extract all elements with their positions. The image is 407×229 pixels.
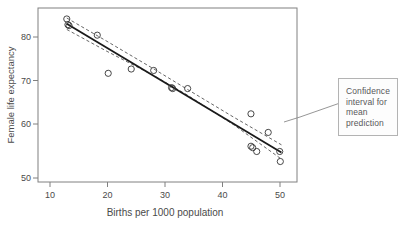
- y-axis-ticks: [33, 37, 38, 178]
- annotation-line-3: mean: [346, 107, 368, 117]
- x-axis-label: Births per 1000 population: [107, 207, 224, 218]
- data-point: [128, 66, 134, 72]
- annotation-line-2: interval for: [346, 97, 387, 107]
- annotation-box: Confidence interval for mean prediction: [338, 78, 398, 136]
- y-tick-label-70: 70: [21, 76, 31, 86]
- data-point: [105, 70, 111, 76]
- x-tick-label-30: 30: [160, 190, 170, 200]
- x-tick-label-50: 50: [275, 190, 285, 200]
- data-point: [277, 158, 283, 164]
- annotation-line-4: prediction: [346, 118, 384, 128]
- data-point: [185, 85, 191, 91]
- y-axis-label: Female life expectancy: [5, 46, 16, 143]
- data-point: [248, 111, 254, 117]
- x-tick-label-20: 20: [102, 190, 112, 200]
- y-tick-label-80: 80: [21, 32, 31, 42]
- x-tick-label-40: 40: [217, 190, 227, 200]
- data-point: [94, 32, 100, 38]
- annotation-text: Confidence interval for mean prediction: [346, 86, 398, 128]
- data-points-group: [64, 16, 284, 165]
- data-point: [250, 145, 256, 151]
- data-point: [254, 148, 260, 154]
- confidence-band-upper: [67, 18, 282, 145]
- y-tick-label-60: 60: [21, 119, 31, 129]
- data-point: [265, 129, 271, 135]
- annotation-leader-line: [284, 103, 340, 122]
- x-tick-label-10: 10: [45, 190, 55, 200]
- confidence-band-lower: [67, 29, 282, 159]
- y-tick-label-50: 50: [21, 173, 31, 183]
- x-axis-ticks: [50, 182, 280, 187]
- regression-line: [67, 24, 282, 153]
- annotation-line-1: Confidence: [346, 86, 390, 96]
- plot-frame: [38, 8, 297, 182]
- data-point: [248, 143, 254, 149]
